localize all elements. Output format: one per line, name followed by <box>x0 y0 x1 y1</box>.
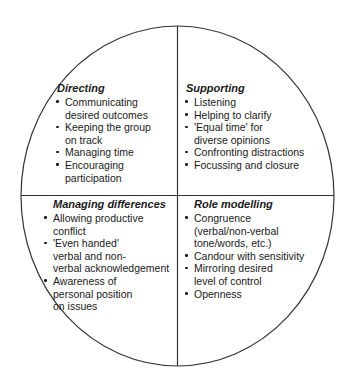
bullet-line: participation <box>65 172 174 185</box>
list-item: Keeping the group on track <box>56 121 174 146</box>
bullet-dot-icon <box>185 151 188 154</box>
bullet-list-supporting: Listening Helping to clarify 'Equal time… <box>185 96 325 172</box>
quadrant-supporting: Supporting Listening Helping to clarify … <box>185 82 325 172</box>
quadrant-diagram: Directing Communicating desired outcomes… <box>0 0 347 386</box>
bullet-line: Listening <box>194 96 325 109</box>
bullet-dot-icon <box>185 163 188 166</box>
bullet-dot-icon <box>185 113 188 116</box>
bullet-line: level of control <box>194 275 325 288</box>
bullet-line: Allowing productive <box>53 212 184 225</box>
bullet-line: Encouraging <box>65 159 174 172</box>
bullet-list-role-modelling: Congruence (verbal/non-verbal tone/words… <box>185 212 325 300</box>
bullet-line: Confronting distractions <box>194 146 325 159</box>
list-item: Listening <box>185 96 325 109</box>
bullet-dot-icon <box>185 216 188 219</box>
bullet-line: on track <box>65 134 174 147</box>
bullet-line: Congruence <box>194 212 325 225</box>
list-item: Encouraging participation <box>56 159 174 184</box>
quadrant-role-modelling: Role modelling Congruence (verbal/non-ve… <box>185 198 325 300</box>
list-item: Candour with sensitivity <box>185 250 325 263</box>
list-item: Openness <box>185 288 325 301</box>
bullet-dot-icon <box>56 100 59 103</box>
bullet-line: on issues <box>53 300 184 313</box>
bullet-dot-icon <box>185 267 188 270</box>
bullet-line: Candour with sensitivity <box>194 250 325 263</box>
bullet-list-managing-differences: Allowing productive conflict 'Even hande… <box>44 212 184 313</box>
quadrant-title-directing: Directing <box>57 82 174 95</box>
quadrant-managing-differences: Managing differences Allowing productive… <box>44 198 184 313</box>
bullet-line: 'Equal time' for <box>194 121 325 134</box>
quadrant-circle-graphic <box>0 0 347 386</box>
bullet-line: Keeping the group <box>65 121 174 134</box>
bullet-line: Focussing and closure <box>194 159 325 172</box>
bullet-list-directing: Communicating desired outcomes Keeping t… <box>56 96 174 184</box>
bullet-line: tone/words, etc.) <box>194 237 325 250</box>
bullet-line: Awareness of <box>53 275 184 288</box>
bullet-dot-icon <box>56 163 59 166</box>
list-item: Managing time <box>56 146 174 159</box>
list-item: Mirroring desired level of control <box>185 262 325 287</box>
bullet-line: verbal and non- <box>53 250 184 263</box>
bullet-dot-icon <box>44 279 47 282</box>
bullet-line: Communicating <box>65 96 174 109</box>
list-item: Communicating desired outcomes <box>56 96 174 121</box>
bullet-line: personal position <box>53 288 184 301</box>
bullet-dot-icon <box>185 100 188 103</box>
bullet-line: Openness <box>194 288 325 301</box>
bullet-line: Mirroring desired <box>194 262 325 275</box>
bullet-line: diverse opinions <box>194 134 325 147</box>
bullet-line: Helping to clarify <box>194 109 325 122</box>
bullet-dot-icon <box>44 216 47 219</box>
bullet-dot-icon <box>56 151 59 154</box>
bullet-dot-icon <box>185 126 188 129</box>
quadrant-title-role-modelling: Role modelling <box>194 198 325 211</box>
list-item: Confronting distractions <box>185 146 325 159</box>
bullet-dot-icon <box>185 292 188 295</box>
list-item: 'Equal time' for diverse opinions <box>185 121 325 146</box>
bullet-dot-icon <box>44 242 47 245</box>
list-item: 'Even handed' verbal and non- verbal ack… <box>44 237 184 275</box>
quadrant-title-supporting: Supporting <box>186 82 325 95</box>
bullet-line: conflict <box>53 225 184 238</box>
list-item: Helping to clarify <box>185 109 325 122</box>
bullet-line: (verbal/non-verbal <box>194 225 325 238</box>
bullet-dot-icon <box>185 254 188 257</box>
quadrant-title-managing-differences: Managing differences <box>53 198 184 211</box>
bullet-line: Managing time <box>65 146 174 159</box>
list-item: Focussing and closure <box>185 159 325 172</box>
list-item: Awareness of personal position on issues <box>44 275 184 313</box>
bullet-line: 'Even handed' <box>53 237 184 250</box>
list-item: Allowing productive conflict <box>44 212 184 237</box>
bullet-dot-icon <box>56 126 59 129</box>
quadrant-directing: Directing Communicating desired outcomes… <box>56 82 174 184</box>
bullet-line: verbal acknowledgement <box>53 262 184 275</box>
list-item: Congruence (verbal/non-verbal tone/words… <box>185 212 325 250</box>
bullet-line: desired outcomes <box>65 109 174 122</box>
